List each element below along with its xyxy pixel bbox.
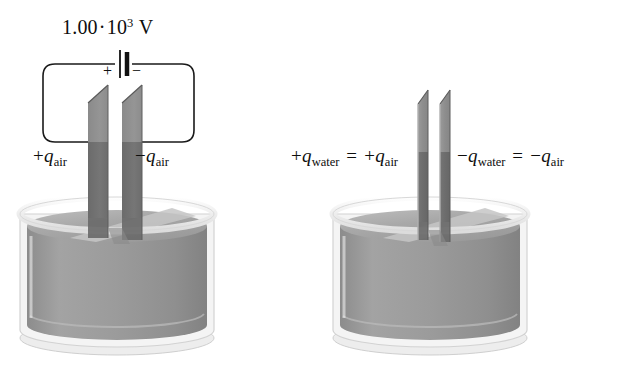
charge-subscript-2: air	[385, 155, 398, 169]
label-charge-positive-water: +qwater = +qair	[291, 145, 398, 170]
charge-subscript: air	[156, 155, 169, 169]
plate-pos-submerged	[418, 222, 428, 240]
battery-minus-sign: −	[132, 62, 141, 79]
charge-sign-positive-2: +	[364, 145, 375, 166]
charge-sign-negative: −	[457, 145, 468, 166]
plate-pos-submerged	[88, 218, 108, 238]
capacitor-plate-negative-water	[440, 90, 450, 242]
charge-sign-negative: −	[135, 145, 146, 166]
charge-symbol: q	[146, 145, 156, 166]
capacitor-plate-positive-water	[418, 90, 428, 240]
plate-pos-upper	[418, 90, 428, 152]
battery-symbol	[120, 50, 127, 78]
charge-symbol: q	[468, 145, 478, 166]
capacitor-plate-positive-air	[88, 85, 108, 238]
charge-symbol: q	[44, 145, 54, 166]
water-assembly-artwork	[300, 0, 629, 375]
charge-sign-positive: +	[33, 145, 44, 166]
label-charge-positive-air: +qair	[33, 145, 67, 170]
physics-figure: 1.00·103 V	[0, 0, 629, 375]
label-charge-negative-air: −qair	[135, 145, 169, 170]
charge-symbol-2: q	[375, 145, 385, 166]
plate-neg-lower	[440, 152, 450, 222]
charge-sign-positive: +	[291, 145, 302, 166]
charge-equals: =	[512, 145, 523, 166]
beaker-water	[333, 197, 527, 355]
plate-pos-lower	[418, 152, 428, 222]
label-charge-negative-water: −qwater = −qair	[457, 145, 564, 170]
charge-subscript: air	[54, 155, 67, 169]
panel-capacitor-in-water	[300, 0, 629, 375]
charge-subscript-2: air	[551, 155, 564, 169]
air-assembly-artwork: + −	[0, 0, 300, 375]
charge-symbol: q	[302, 145, 312, 166]
plate-pos-lower	[88, 142, 108, 218]
charge-equals: =	[346, 145, 357, 166]
charge-subscript: water	[478, 155, 506, 169]
plate-neg-upper	[440, 90, 450, 152]
circuit-wire-air	[43, 64, 194, 142]
panel-capacitor-in-air: 1.00·103 V	[0, 0, 300, 375]
battery-plus-sign: +	[103, 62, 112, 79]
charge-sign-negative-2: −	[530, 145, 541, 166]
beaker-air	[20, 197, 214, 355]
charge-symbol-2: q	[541, 145, 551, 166]
charge-subscript: water	[312, 155, 340, 169]
